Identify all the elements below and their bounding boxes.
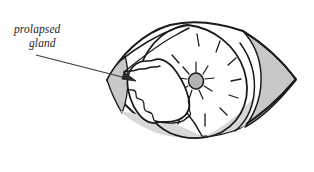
annotation-label-line1: prolapsed bbox=[13, 23, 61, 36]
figure-canvas: prolapsed gland bbox=[0, 0, 314, 172]
annotation-label-line2: gland bbox=[29, 37, 56, 50]
eye-illustration: prolapsed gland bbox=[0, 0, 314, 172]
